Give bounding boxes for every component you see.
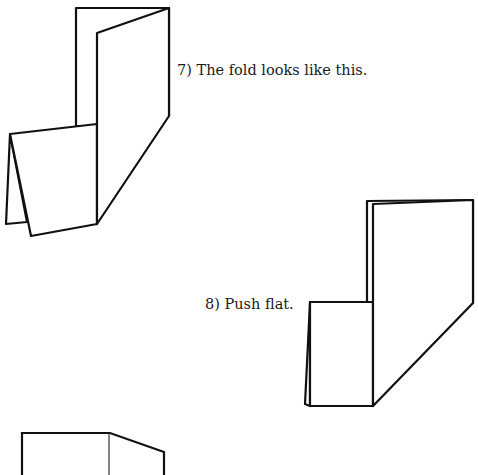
step-8-lower-flap — [310, 302, 373, 406]
step-8-front-panel — [373, 200, 473, 406]
step-7-figure — [6, 8, 169, 236]
step-8-figure — [305, 200, 473, 406]
step-8-caption: 8) Push flat. — [205, 297, 294, 312]
step-9-figure — [22, 433, 164, 475]
step-7-front-panel — [97, 8, 169, 224]
origami-instructions-diagram: 7) The fold looks like this. 8) Push fla… — [0, 0, 478, 475]
step-9-outline — [22, 433, 164, 475]
step-7-caption: 7) The fold looks like this. — [177, 63, 367, 78]
